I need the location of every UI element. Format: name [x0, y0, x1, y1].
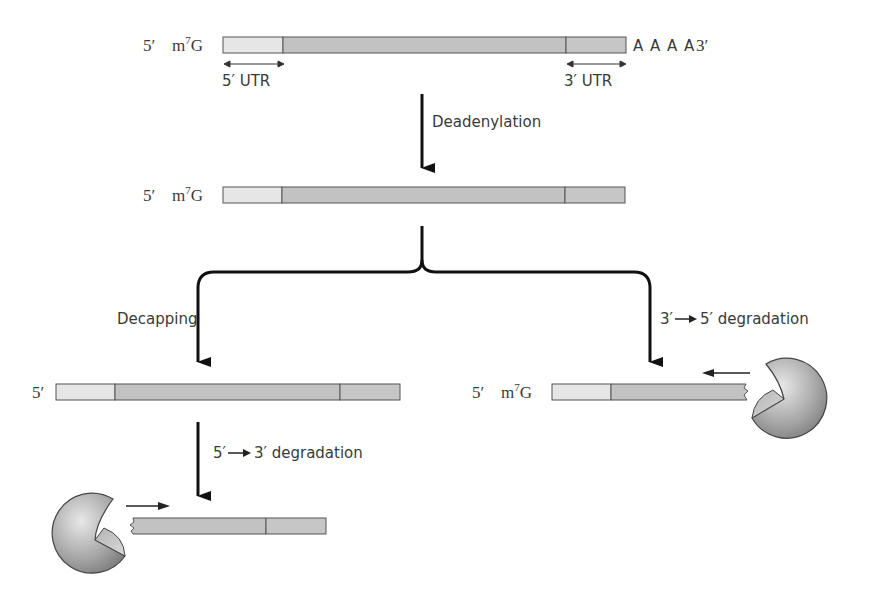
svg-text:3′ degradation: 3′ degradation — [254, 444, 363, 462]
utr3-segment — [266, 518, 326, 534]
five-prime-label: 5′ — [472, 383, 484, 402]
utr5-segment — [552, 384, 611, 400]
five-to-three-degradation-label: 5′ 3′ degradation — [213, 444, 363, 462]
svg-text:3′: 3′ — [660, 310, 674, 328]
five-prime-label: 5′ — [143, 186, 155, 205]
cap-label: m7G — [501, 381, 532, 402]
exonuclease-3to5-icon — [752, 358, 827, 438]
utr5-span-arrow — [224, 61, 284, 67]
utr5-segment — [223, 187, 282, 203]
utr5-label: 5′ UTR — [222, 72, 270, 90]
three-to-five-branch-arrow — [422, 260, 650, 362]
utr3-segment — [340, 384, 400, 400]
coding-segment — [282, 187, 565, 203]
five-prime-label: 5′ — [32, 383, 44, 402]
three-prime-label: 3′ — [696, 36, 708, 55]
polya-tail: A A A A — [633, 37, 695, 55]
utr3-span-arrow — [567, 61, 626, 67]
utr5-segment — [56, 384, 115, 400]
svg-text:5′ degradation: 5′ degradation — [700, 310, 809, 328]
cap-label: m7G — [172, 184, 203, 205]
decapping-branch-arrow — [198, 226, 422, 362]
mrna-full: 5′ m7G A A A A 3′ 5′ UTR 3′ UTR — [143, 34, 708, 90]
decapping-label: Decapping — [117, 310, 197, 328]
mrna-3to5-fragment: 5′ m7G — [472, 369, 750, 402]
utr3-label: 3′ UTR — [564, 72, 612, 90]
five-prime-label: 5′ — [143, 36, 155, 55]
exonuclease-5to3-icon — [52, 493, 125, 573]
three-to-five-degradation-label: 3′ 5′ degradation — [660, 310, 809, 328]
utr5-segment — [223, 37, 283, 53]
deadenylation-label: Deadenylation — [432, 113, 541, 131]
coding-segment — [130, 518, 266, 534]
mrna-deadenylated: 5′ m7G — [143, 184, 625, 205]
utr3-segment — [566, 37, 626, 53]
utr3-segment — [565, 187, 625, 203]
mrna-decapped: 5′ — [32, 383, 400, 402]
coding-segment — [611, 384, 748, 400]
cap-label: m7G — [172, 34, 203, 55]
mrna-5to3-fragment — [126, 502, 326, 534]
coding-segment — [115, 384, 340, 400]
coding-segment — [283, 37, 566, 53]
svg-text:5′: 5′ — [213, 444, 227, 462]
mrna-decay-diagram: 5′ m7G A A A A 3′ 5′ UTR 3′ UTR Deadenyl… — [0, 0, 879, 595]
